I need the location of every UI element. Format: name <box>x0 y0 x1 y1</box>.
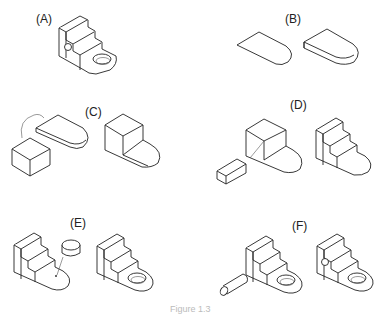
part-d-operation <box>217 119 302 184</box>
part-c-operation <box>12 114 88 176</box>
part-b-extrude <box>304 29 358 64</box>
figure-caption: Figure 1.3 <box>170 304 211 314</box>
part-b-sketch <box>237 32 292 65</box>
part-e-result <box>97 234 153 291</box>
part-c-result <box>105 114 160 167</box>
part-e-operation <box>14 233 80 290</box>
part-d-result <box>316 118 371 175</box>
part-a-finished <box>59 16 116 74</box>
part-f-operation <box>219 236 302 297</box>
part-f-result <box>317 234 373 291</box>
